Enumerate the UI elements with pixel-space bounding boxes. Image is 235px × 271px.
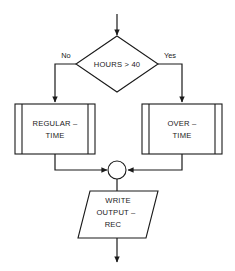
output-line2: OUTPUT – bbox=[96, 208, 136, 217]
decision-label: HOURS > 40 bbox=[94, 60, 141, 69]
branch-no-label: No bbox=[61, 51, 70, 60]
output-line1: WRITE bbox=[105, 196, 130, 205]
flowchart-svg: HOURS > 40 No Yes REGULAR – TIME OVER – … bbox=[0, 0, 235, 271]
branch-yes-line bbox=[158, 64, 182, 102]
branch-yes-label: Yes bbox=[164, 51, 176, 60]
merge-connector-circle bbox=[108, 161, 126, 179]
process-over-time-line1: OVER – bbox=[167, 119, 197, 128]
flowchart-canvas: HOURS > 40 No Yes REGULAR – TIME OVER – … bbox=[0, 0, 235, 271]
merge-line-right bbox=[128, 154, 182, 170]
output-line3: REC bbox=[105, 220, 122, 229]
process-over-time-box bbox=[142, 104, 222, 154]
branch-no-line bbox=[55, 64, 76, 102]
merge-line-left bbox=[55, 154, 107, 170]
process-regular-time-box bbox=[15, 104, 95, 154]
process-regular-time-line2: TIME bbox=[46, 131, 65, 140]
process-regular-time-line1: REGULAR – bbox=[33, 119, 78, 128]
process-over-time-line2: TIME bbox=[173, 131, 192, 140]
